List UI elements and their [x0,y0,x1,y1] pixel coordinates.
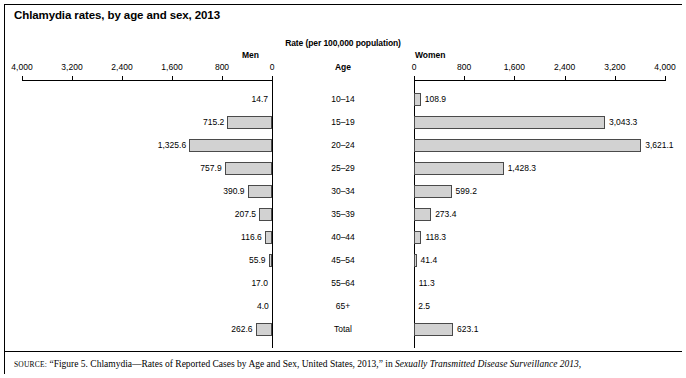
chart-row: 14.710–14108.9 [0,88,686,111]
women-bar [414,231,421,244]
men-axis-tick-label: 800 [215,62,229,72]
source-text: “Figure 5. Chlamydia—Rates of Reported C… [47,359,395,369]
men-value-label: 55.9 [249,255,266,266]
women-bar [414,93,421,106]
men-bar [256,323,272,336]
age-column-header: Age [313,62,373,72]
men-value-label: 207.5 [235,209,256,220]
women-bar [414,162,504,175]
chart-row: 17.055–6411.3 [0,272,686,295]
chart-rows: 14.710–14108.9715.215–193,043.31,325.620… [0,88,686,341]
women-value-label: 3,043.3 [609,117,637,128]
women-bar [414,208,431,221]
age-group-label: 45–54 [313,255,373,266]
women-value-label: 623.1 [457,324,478,335]
men-value-label: 116.6 [241,232,262,243]
women-value-label: 599.2 [456,186,477,197]
chart-row: 262.6Total623.1 [0,318,686,341]
women-bar [414,139,641,152]
men-value-label: 757.9 [200,163,221,174]
age-group-label: Total [313,324,373,335]
age-group-label: 40–44 [313,232,373,243]
men-bar [265,231,272,244]
women-axis-tick-label: 0 [412,62,417,72]
age-group-label: 20–24 [313,140,373,151]
age-group-label: 35–39 [313,209,373,220]
chart-subtitle: Rate (per 100,000 population) [0,38,686,48]
age-group-label: 10–14 [313,94,373,105]
men-axis-tick-label: 2,400 [111,62,132,72]
men-value-label: 4.0 [257,301,269,312]
men-axis-tick-label: 3,200 [61,62,82,72]
women-axis-tick-label: 4,000 [654,62,675,72]
women-axis-tick-label: 2,400 [554,62,575,72]
chart-row: 757.925–291,428.3 [0,157,686,180]
source-label: SOURCE: [14,360,47,369]
women-bar [414,116,605,129]
women-axis-tick-label: 1,600 [504,62,525,72]
page-title: Chlamydia rates, by age and sex, 2013 [14,9,220,21]
source-publication-title: Sexually Transmitted Disease Surveillanc… [395,359,581,369]
chart-row: 390.930–34599.2 [0,180,686,203]
women-value-label: 273.4 [435,209,456,220]
age-group-label: 65+ [313,301,373,312]
men-axis-tick-label: 1,600 [161,62,182,72]
men-axis-tick-label: 0 [270,62,275,72]
women-bar [414,254,417,267]
men-axis-tick-label: 4,000 [11,62,32,72]
women-axis-tick-label: 800 [457,62,471,72]
women-value-label: 41.4 [421,255,438,266]
women-bar [414,323,453,336]
figure-frame-top-rule [4,4,682,5]
women-bar [414,185,452,198]
men-bar [248,185,272,198]
men-bar [189,139,272,152]
chart-row: 715.215–193,043.3 [0,111,686,134]
men-bar [259,208,272,221]
men-value-label: 262.6 [231,324,252,335]
age-group-label: 15–19 [313,117,373,128]
age-group-label: 25–29 [313,163,373,174]
women-axis-line [414,80,665,81]
men-bar [225,162,272,175]
chart-row: 116.640–44118.3 [0,226,686,249]
women-axis-tick [665,76,666,81]
men-value-label: 17.0 [251,278,268,289]
women-value-label: 2.5 [418,301,430,312]
men-bar [269,254,272,267]
women-value-label: 118.3 [425,232,446,243]
age-group-label: 55–64 [313,278,373,289]
chart-row: 1,325.620–243,621.1 [0,134,686,157]
chart-figure: Chlamydia rates, by age and sex, 2013 Ra… [0,0,686,378]
women-value-label: 108.9 [425,94,446,105]
women-axis-tick-label: 3,200 [604,62,625,72]
chart-row: 4.065+2.5 [0,295,686,318]
men-value-label: 390.9 [223,186,244,197]
men-series-label: Men [242,50,259,60]
women-value-label: 3,621.1 [645,140,673,151]
chart-row: 55.945–5441.4 [0,249,686,272]
source-divider [4,351,682,352]
age-group-label: 30–34 [313,186,373,197]
women-value-label: 11.3 [419,278,435,289]
women-value-label: 1,428.3 [508,163,536,174]
men-value-label: 715.2 [203,117,224,128]
source-note: SOURCE: “Figure 5. Chlamydia—Rates of Re… [14,358,680,371]
men-axis-line [22,80,273,81]
women-series-label: Women [415,50,446,60]
men-value-label: 14.7 [252,94,269,105]
men-bar [227,116,272,129]
chart-row: 207.535–39273.4 [0,203,686,226]
men-value-label: 1,325.6 [158,140,186,151]
